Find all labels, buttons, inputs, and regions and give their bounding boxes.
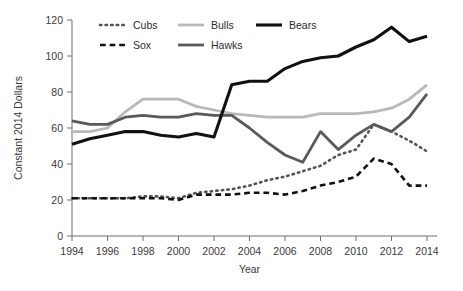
y-axis-tick-label: 0	[57, 230, 63, 242]
y-axis-tick-label: 60	[51, 122, 63, 134]
x-axis-tick-label: 1994	[60, 245, 84, 257]
x-axis-tick-label: 1996	[96, 245, 120, 257]
y-axis-tick-label: 20	[51, 194, 63, 206]
series-line-cubs	[72, 124, 427, 198]
legend-label-cubs: Cubs	[133, 19, 158, 31]
y-axis-title: Constant 2014 Dollars	[12, 76, 24, 180]
x-axis-title: Year	[239, 263, 261, 275]
legend-label-hawks: Hawks	[211, 39, 243, 51]
x-axis-tick-label: 2004	[238, 245, 262, 257]
x-axis-tick-label: 2014	[415, 245, 439, 257]
series-line-hawks	[72, 94, 427, 162]
x-axis-tick-label: 2010	[344, 245, 368, 257]
x-axis-tick-label: 1998	[131, 245, 155, 257]
legend-label-bulls: Bulls	[211, 19, 234, 31]
y-axis-tick-label: 100	[45, 50, 63, 62]
chart-container: 0204060801001201994199619982000200220042…	[0, 0, 463, 291]
legend-label-sox: Sox	[133, 39, 152, 51]
line-chart: 0204060801001201994199619982000200220042…	[0, 0, 463, 291]
x-axis-tick-label: 2012	[380, 245, 404, 257]
y-axis-tick-label: 80	[51, 86, 63, 98]
series-line-sox	[72, 159, 427, 200]
x-axis-tick-label: 2000	[167, 245, 191, 257]
y-axis-tick-label: 120	[45, 14, 63, 26]
legend-label-bears: Bears	[289, 19, 316, 31]
x-axis-tick-label: 2006	[273, 245, 297, 257]
y-axis-tick-label: 40	[51, 158, 63, 170]
x-axis-tick-label: 2002	[202, 245, 226, 257]
x-axis-tick-label: 2008	[309, 245, 333, 257]
